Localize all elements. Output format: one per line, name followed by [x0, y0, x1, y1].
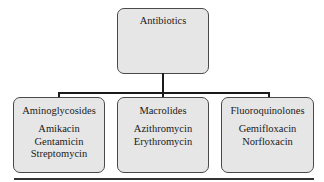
node-macrolides: Macrolides Azithromycin Erythromycin	[117, 97, 209, 173]
drug-item: Streptomycin	[14, 148, 104, 161]
connector-horizontal	[58, 92, 270, 94]
connector-root-down	[162, 73, 164, 93]
node-aminoglycosides: Aminoglycosides Amikacin Gentamicin Stre…	[13, 97, 105, 173]
drug-item: Amikacin	[14, 123, 104, 136]
drug-item: Azithromycin	[118, 123, 208, 136]
node-fluoroquinolones: Fluoroquinolones Gemifloxacin Norfloxaci…	[221, 97, 314, 173]
root-node-label: Antibiotics	[118, 14, 208, 27]
node-label: Macrolides	[118, 104, 208, 117]
bottom-rule	[14, 178, 314, 180]
drug-item: Erythromycin	[118, 136, 208, 149]
node-label: Fluoroquinolones	[222, 104, 313, 117]
node-label: Aminoglycosides	[14, 104, 104, 117]
drug-item: Gentamicin	[14, 136, 104, 149]
root-node-antibiotics: Antibiotics	[117, 8, 209, 74]
drug-item: Gemifloxacin	[222, 123, 313, 136]
drug-item: Norfloxacin	[222, 136, 313, 149]
